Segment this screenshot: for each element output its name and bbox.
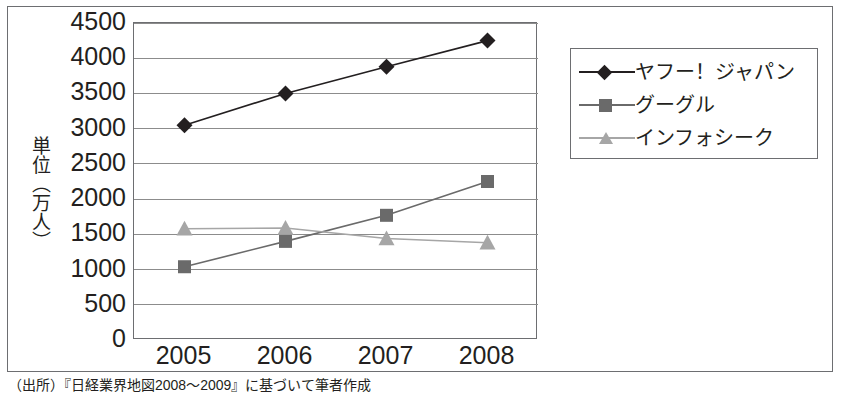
data-point-marker (177, 117, 193, 133)
legend-entry[interactable]: インフォシーク (579, 121, 817, 154)
y-axis-tick-label: 4500 (50, 9, 126, 34)
legend-marker-diamond-icon (597, 64, 613, 80)
legend-marker-triangle-icon (599, 132, 613, 144)
series-square (178, 175, 494, 273)
series-line (185, 41, 488, 126)
y-axis-tick-label: 2500 (50, 150, 126, 175)
legend-entry[interactable]: グーグル (579, 88, 817, 121)
y-axis-title: 単位（万人） (24, 108, 50, 278)
legend-label: インフォシーク (635, 127, 774, 149)
data-point-marker (480, 33, 496, 49)
x-axis-tick-label: 2008 (432, 341, 542, 369)
legend-entry[interactable]: ヤフー！ジャパン (579, 55, 817, 88)
y-axis-tick-label: 2000 (50, 185, 126, 210)
legend-label: グーグル (635, 94, 715, 116)
data-point-marker (380, 209, 393, 222)
y-axis-tick-label: 1500 (50, 220, 126, 245)
series-diamond (177, 33, 496, 134)
y-axis-tick-label: 4000 (50, 44, 126, 69)
y-axis-tick-labels: 450040003500300025002000150010005000 (50, 0, 126, 391)
x-axis-tick-label: 2005 (129, 341, 239, 369)
x-axis-tick-label: 2007 (331, 341, 441, 369)
legend-marker-square-icon (599, 99, 612, 112)
legend-label: ヤフー！ジャパン (635, 61, 795, 83)
data-point-marker (178, 260, 191, 273)
legend-key-square-icon (579, 95, 635, 115)
series-line (185, 228, 488, 243)
data-point-marker (278, 85, 294, 101)
legend-key-diamond-icon (579, 62, 635, 82)
data-point-marker (379, 59, 395, 75)
plot-svg (134, 23, 538, 340)
x-axis-tick-label: 2006 (230, 341, 340, 369)
plot-area (133, 22, 537, 339)
chart-legend: ヤフー！ジャパングーグルインフォシーク (570, 48, 818, 159)
data-point-marker (481, 175, 494, 188)
y-axis-tick-label: 500 (50, 291, 126, 316)
series-line (185, 182, 488, 267)
y-axis-tick-label: 3000 (50, 115, 126, 140)
x-axis-tick-labels: 2005200620072008 (133, 341, 537, 375)
source-caption: （出所）『日経業界地図2008〜2009』に基づいて筆者作成 (8, 377, 371, 393)
y-axis-tick-label: 0 (50, 326, 126, 351)
y-axis-tick-label: 3500 (50, 79, 126, 104)
y-axis-tick-label: 1000 (50, 256, 126, 281)
legend-key-triangle-icon (579, 128, 635, 148)
data-point-marker (279, 235, 292, 248)
